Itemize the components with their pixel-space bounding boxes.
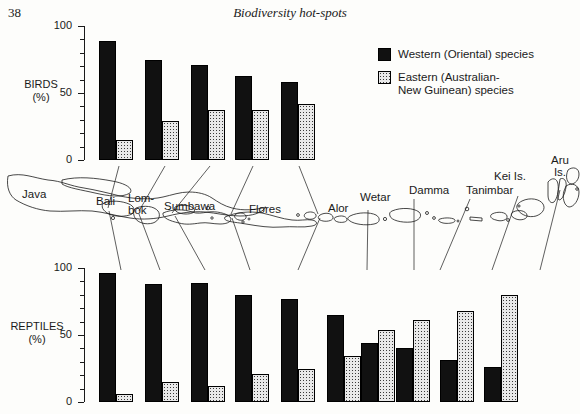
bar-western (484, 367, 501, 402)
axis-tick-minor (80, 308, 84, 309)
bar-eastern (457, 311, 474, 402)
bar-western (281, 299, 298, 402)
bar-group (484, 268, 518, 402)
bar-group (396, 268, 430, 402)
map-label-bali: Bali (96, 195, 115, 207)
chart-legend: Western (Oriental) species Eastern (Aust… (378, 48, 534, 107)
reptiles-chart: REPTILES (%) 050100 (0, 268, 580, 408)
axis-tick-minor (80, 66, 84, 67)
bar-western (235, 76, 252, 160)
bar-western (99, 41, 116, 160)
map-label-kei: Kei Is. (494, 170, 526, 182)
bar-western (327, 315, 344, 402)
bar-eastern (208, 110, 225, 160)
axis-tick-label: 100 (42, 19, 72, 31)
legend-label-west: Western (Oriental) species (398, 48, 534, 62)
bar-western (361, 343, 378, 402)
map-label-sumbawa: Sumbawa (164, 200, 215, 212)
bar-eastern (378, 330, 395, 402)
bar-eastern (413, 320, 430, 402)
bar-group (440, 268, 474, 402)
axis-tick-major (78, 160, 84, 161)
axis-tick-minor (80, 80, 84, 81)
axis-tick-label: 0 (42, 395, 72, 407)
bar-western (99, 273, 116, 402)
axis-tick-minor (80, 53, 84, 54)
axis-tick-major (78, 335, 84, 336)
bar-western (145, 60, 162, 161)
bar-group (327, 268, 361, 402)
bar-eastern (162, 121, 179, 160)
map-label-lombok: Lom- bok (128, 192, 154, 217)
axis-tick-minor (80, 295, 84, 296)
legend-swatch-east-icon (378, 71, 391, 84)
bar-group (235, 268, 269, 402)
bar-group (99, 26, 133, 160)
axis-tick-label: 50 (42, 86, 72, 98)
bar-eastern (252, 110, 269, 160)
bar-eastern (208, 386, 225, 402)
bar-western (191, 65, 208, 160)
axis-spine (84, 268, 85, 402)
map-label-java: Java (22, 188, 46, 200)
bar-group (99, 268, 133, 402)
bar-group (361, 268, 395, 402)
bar-eastern (116, 140, 133, 160)
bar-eastern (298, 369, 315, 403)
map-label-alor: Alor (328, 202, 348, 214)
axis-tick-minor (80, 375, 84, 376)
bar-western (396, 348, 413, 402)
axis-tick-major (78, 268, 84, 269)
bar-group (191, 26, 225, 160)
bar-group (235, 26, 269, 160)
legend-item-east: Eastern (Australian- New Guinean) specie… (378, 71, 534, 98)
map-label-tanimbar: Tanimbar (466, 184, 513, 196)
bar-group (145, 268, 179, 402)
axis-tick-major (78, 402, 84, 403)
axis-tick-minor (80, 322, 84, 323)
map-label-damma: Damma (409, 184, 449, 196)
axis-tick-label: 100 (42, 261, 72, 273)
bar-western (191, 283, 208, 402)
axis-tick-minor (80, 281, 84, 282)
axis-tick-minor (80, 120, 84, 121)
axis-tick-major (78, 93, 84, 94)
map-label-wetar: Wetar (360, 191, 390, 203)
axis-tick-minor (80, 362, 84, 363)
bar-eastern (116, 394, 133, 402)
legend-label-east: Eastern (Australian- New Guinean) specie… (398, 71, 514, 98)
bar-group (191, 268, 225, 402)
bar-western (281, 82, 298, 160)
indonesia-island-map (0, 166, 580, 270)
bar-eastern (298, 104, 315, 160)
bar-western (145, 284, 162, 402)
bar-eastern (162, 382, 179, 402)
axis-tick-minor (80, 147, 84, 148)
bar-western (440, 360, 457, 402)
axis-tick-label: 50 (42, 328, 72, 340)
axis-spine (84, 26, 85, 160)
running-head: Biodiversity hot-spots (0, 5, 580, 21)
bar-western (235, 295, 252, 402)
map-label-aru: Aru Is. (551, 154, 569, 179)
map-label-flores: Flores (249, 203, 281, 215)
axis-tick-minor (80, 389, 84, 390)
axis-tick-minor (80, 133, 84, 134)
legend-swatch-west-icon (378, 48, 391, 61)
axis-tick-label: 0 (42, 153, 72, 165)
map-band: Java Bali Lom- bok Sumbawa Flores Alor W… (0, 166, 580, 270)
axis-tick-minor (80, 39, 84, 40)
axis-tick-minor (80, 106, 84, 107)
bar-eastern (344, 356, 361, 402)
bar-group (281, 26, 315, 160)
bar-group (281, 268, 315, 402)
bar-group (145, 26, 179, 160)
axis-tick-major (78, 26, 84, 27)
legend-item-west: Western (Oriental) species (378, 48, 534, 62)
bar-eastern (252, 374, 269, 402)
axis-tick-minor (80, 348, 84, 349)
bar-eastern (501, 295, 518, 402)
